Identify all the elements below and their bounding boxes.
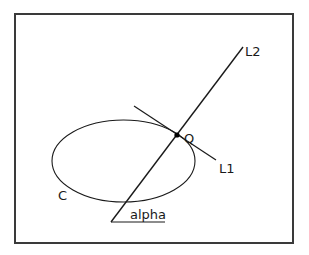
tangent-diagram: L2 Q L1 C alpha [0,0,309,255]
label-q: Q [184,131,194,146]
label-l1: L1 [219,161,235,176]
label-alpha: alpha [130,207,166,222]
label-c: C [58,188,67,203]
line-l1-tangent [134,106,216,160]
label-l2: L2 [245,44,261,59]
point-q [174,132,179,137]
